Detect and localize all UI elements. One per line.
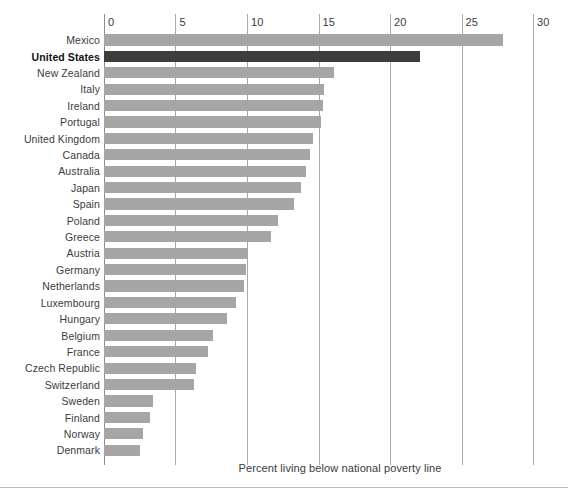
bar-row: Greece xyxy=(104,229,533,245)
bar-category-label: Italy xyxy=(80,83,100,95)
bar-row: Finland xyxy=(104,409,533,425)
bar-category-label: Luxembourg xyxy=(41,297,100,309)
bar xyxy=(104,428,143,439)
bar xyxy=(104,182,301,193)
bar xyxy=(104,363,196,374)
bar-rows: MexicoUnited StatesNew ZealandItalyIrela… xyxy=(104,32,533,459)
bar-category-label: France xyxy=(67,346,100,358)
bar xyxy=(104,445,140,456)
bar-row: United States xyxy=(104,48,533,64)
bar-category-label: Ireland xyxy=(67,100,100,112)
x-axis-label: Percent living below national poverty li… xyxy=(0,462,568,474)
bar-category-label: Denmark xyxy=(57,444,100,456)
bar-category-label: Hungary xyxy=(60,313,100,325)
x-tick-label-10: 10 xyxy=(251,16,264,28)
x-axis-label-text: Percent living below national poverty li… xyxy=(127,462,442,474)
bar-row: Japan xyxy=(104,180,533,196)
bar-category-label: Czech Republic xyxy=(25,362,100,374)
bar xyxy=(104,346,208,357)
bar-category-label: Switzerland xyxy=(45,379,100,391)
bar-category-label: Australia xyxy=(58,165,100,177)
bar xyxy=(104,51,420,62)
bar-row: Germany xyxy=(104,262,533,278)
bar-category-label: Germany xyxy=(56,264,100,276)
bar-row: Czech Republic xyxy=(104,360,533,376)
bar-category-label: Poland xyxy=(67,215,100,227)
bar-row: Poland xyxy=(104,212,533,228)
bar-row: Hungary xyxy=(104,311,533,327)
bar-row: Luxembourg xyxy=(104,295,533,311)
bar-row: Denmark xyxy=(104,442,533,458)
bar-category-label: New Zealand xyxy=(37,67,100,79)
bar-category-label: Canada xyxy=(63,149,100,161)
bar xyxy=(104,166,306,177)
x-tick-label-0: 0 xyxy=(108,16,114,28)
bar-row: Mexico xyxy=(104,32,533,48)
bar-row: Netherlands xyxy=(104,278,533,294)
bar xyxy=(104,67,334,78)
bar xyxy=(104,198,294,209)
bar xyxy=(104,231,271,242)
poverty-rate-bar-chart: 051015202530 MexicoUnited StatesNew Zeal… xyxy=(0,0,568,496)
bar-category-label: Portugal xyxy=(60,116,100,128)
x-tick-label-5: 5 xyxy=(179,16,185,28)
bar-row: New Zealand xyxy=(104,65,533,81)
bar xyxy=(104,395,153,406)
bar-category-label: Netherlands xyxy=(42,280,100,292)
bar xyxy=(104,412,150,423)
bar-row: Spain xyxy=(104,196,533,212)
bar-category-label: Austria xyxy=(67,247,100,259)
bar-category-label: Japan xyxy=(71,182,100,194)
bar-row: France xyxy=(104,344,533,360)
bar xyxy=(104,248,248,259)
x-tick-label-15: 15 xyxy=(323,16,336,28)
bar-category-label: Finland xyxy=(65,412,100,424)
bar-category-label: Norway xyxy=(64,428,100,440)
bar xyxy=(104,330,213,341)
bar-row: Norway xyxy=(104,426,533,442)
bar-row: Italy xyxy=(104,81,533,97)
bar xyxy=(104,133,313,144)
bar-row: Sweden xyxy=(104,393,533,409)
bar-row: Belgium xyxy=(104,327,533,343)
bar-row: United Kingdom xyxy=(104,130,533,146)
bar-row: Australia xyxy=(104,163,533,179)
bar xyxy=(104,313,227,324)
bar-category-label: Sweden xyxy=(61,395,100,407)
bar xyxy=(104,149,310,160)
footer-divider xyxy=(0,487,568,488)
bar-category-label: United Kingdom xyxy=(24,133,100,145)
x-tick-label-30: 30 xyxy=(537,16,550,28)
gridline-30 xyxy=(533,14,534,465)
plot-area: 051015202530 MexicoUnited StatesNew Zeal… xyxy=(104,14,533,465)
bar-row: Portugal xyxy=(104,114,533,130)
bar-row: Ireland xyxy=(104,98,533,114)
bar xyxy=(104,100,323,111)
bar xyxy=(104,34,503,45)
bar-category-label: Belgium xyxy=(61,330,100,342)
bar-row: Switzerland xyxy=(104,377,533,393)
bar xyxy=(104,379,194,390)
x-tick-label-20: 20 xyxy=(394,16,407,28)
bar xyxy=(104,215,278,226)
bar-category-label: Mexico xyxy=(66,34,100,46)
bar-category-label: United States xyxy=(32,51,100,63)
bar-row: Canada xyxy=(104,147,533,163)
bar xyxy=(104,297,236,308)
bar xyxy=(104,264,246,275)
x-tick-label-25: 25 xyxy=(466,16,479,28)
bar xyxy=(104,84,324,95)
bar xyxy=(104,280,244,291)
bar-row: Austria xyxy=(104,245,533,261)
bar-category-label: Spain xyxy=(73,198,100,210)
bar xyxy=(104,116,321,127)
bar-category-label: Greece xyxy=(65,231,100,243)
